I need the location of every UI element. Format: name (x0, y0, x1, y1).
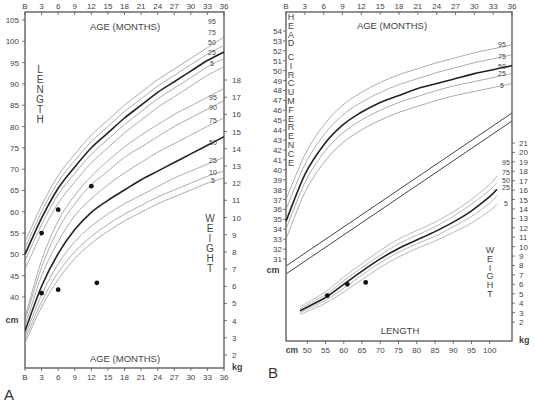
svg-text:40: 40 (273, 166, 282, 175)
svg-text:B: B (22, 373, 27, 382)
svg-text:5: 5 (504, 200, 508, 207)
length-percentile-5 (25, 67, 224, 269)
panel-b-head-circumference-weight-for-length-chart: B369121518212427303336AGE (MONTHS)313233… (266, 2, 529, 355)
svg-text:33: 33 (273, 235, 282, 244)
svg-text:51: 51 (273, 57, 282, 66)
svg-text:55: 55 (321, 346, 330, 355)
svg-text:44: 44 (273, 126, 282, 135)
svg-text:75: 75 (394, 346, 403, 355)
svg-text:49: 49 (273, 77, 282, 86)
svg-text:12: 12 (87, 373, 96, 382)
svg-text:2: 2 (232, 351, 237, 360)
svg-text:35: 35 (273, 215, 282, 224)
svg-text:65: 65 (10, 186, 19, 195)
svg-text:100: 100 (483, 346, 497, 355)
svg-text:85: 85 (431, 346, 440, 355)
svg-text:48: 48 (273, 86, 282, 95)
svg-text:53: 53 (273, 37, 282, 46)
svg-text:45: 45 (273, 116, 282, 125)
svg-text:95: 95 (10, 59, 19, 68)
svg-text:18: 18 (120, 2, 129, 11)
svg-text:90: 90 (449, 346, 458, 355)
svg-text:25: 25 (208, 49, 216, 56)
svg-text:12: 12 (87, 2, 96, 11)
svg-text:60: 60 (339, 346, 348, 355)
svg-text:12: 12 (519, 224, 528, 233)
svg-text:6: 6 (519, 280, 524, 289)
svg-text:18: 18 (519, 167, 528, 176)
svg-text:T: T (207, 263, 213, 274)
svg-text:14: 14 (232, 145, 241, 154)
svg-text:18: 18 (395, 2, 404, 11)
svg-text:14: 14 (519, 205, 528, 214)
weight-percentile-25 (25, 157, 224, 336)
svg-text:8: 8 (232, 248, 237, 257)
svg-text:50: 50 (208, 39, 216, 46)
panel-b-label: B (268, 364, 278, 381)
svg-text:32: 32 (273, 245, 282, 254)
svg-text:15: 15 (232, 128, 241, 137)
svg-text:80: 80 (10, 123, 19, 132)
svg-text:3: 3 (303, 2, 308, 11)
svg-text:15: 15 (103, 2, 112, 11)
svg-text:D: D (288, 38, 295, 48)
svg-text:16: 16 (519, 186, 528, 195)
svg-text:50: 50 (273, 67, 282, 76)
svg-text:15: 15 (519, 196, 528, 205)
svg-text:5: 5 (232, 299, 237, 308)
svg-text:6: 6 (56, 2, 61, 11)
head-circumference-percentile-95 (286, 45, 512, 200)
svg-text:AGE (MONTHS): AGE (MONTHS) (90, 21, 160, 32)
svg-text:52: 52 (273, 47, 282, 56)
panel-a-length-weight-chart: B369121518212427303336B36912151821242730… (5, 2, 242, 382)
svg-text:95: 95 (209, 94, 217, 101)
svg-text:9: 9 (232, 231, 237, 240)
svg-text:50: 50 (303, 346, 312, 355)
svg-text:3: 3 (232, 334, 237, 343)
svg-text:95: 95 (208, 18, 216, 25)
length-percentile-95 (25, 37, 224, 242)
svg-text:70: 70 (376, 346, 385, 355)
svg-text:25: 25 (498, 70, 506, 77)
panel-b-frame (286, 12, 512, 341)
svg-text:17: 17 (232, 93, 241, 102)
growth-chart-figure: B369121518212427303336B36912151821242730… (0, 0, 535, 408)
svg-text:5: 5 (500, 82, 504, 89)
svg-text:47: 47 (273, 96, 282, 105)
svg-text:33: 33 (489, 2, 498, 11)
svg-text:11: 11 (519, 233, 528, 242)
svg-text:9: 9 (73, 2, 78, 11)
svg-text:24: 24 (153, 2, 162, 11)
svg-text:21: 21 (519, 139, 528, 148)
svg-text:11: 11 (232, 196, 241, 205)
svg-text:7: 7 (519, 271, 524, 280)
head-circumference-percentile-5 (286, 84, 512, 240)
svg-text:18: 18 (120, 373, 129, 382)
svg-text:cm: cm (5, 315, 18, 325)
weight-for-length-percentile-75 (300, 183, 497, 309)
svg-text:9: 9 (340, 2, 345, 11)
svg-text:30: 30 (470, 2, 479, 11)
svg-text:25: 25 (209, 157, 217, 164)
svg-text:13: 13 (519, 214, 528, 223)
svg-text:24: 24 (153, 373, 162, 382)
svg-text:95: 95 (498, 41, 506, 48)
svg-text:20: 20 (519, 148, 528, 157)
svg-text:21: 21 (413, 2, 422, 11)
svg-text:18: 18 (232, 76, 241, 85)
svg-text:3: 3 (39, 373, 44, 382)
svg-text:30: 30 (186, 373, 195, 382)
panel-a-label: A (4, 386, 14, 403)
svg-text:4: 4 (519, 299, 524, 308)
svg-text:31: 31 (273, 255, 282, 264)
head-circumference-percentile-75 (286, 55, 512, 210)
svg-text:27: 27 (451, 2, 460, 11)
svg-text:2: 2 (519, 318, 524, 327)
svg-text:36: 36 (220, 373, 229, 382)
svg-text:80: 80 (412, 346, 421, 355)
svg-text:15: 15 (376, 2, 385, 11)
weight-percentile-75 (25, 118, 224, 326)
svg-text:cm: cm (286, 345, 299, 355)
svg-text:27: 27 (170, 373, 179, 382)
svg-text:55: 55 (10, 229, 19, 238)
